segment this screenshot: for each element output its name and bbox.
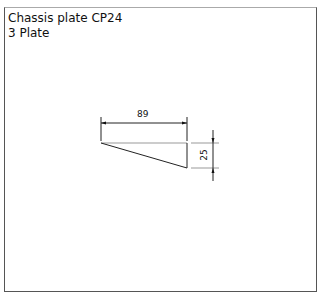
height-dimension-label: 25	[199, 149, 209, 160]
width-dimension	[101, 117, 187, 141]
width-dimension-label: 89	[137, 109, 148, 119]
triangle-shape	[101, 143, 187, 168]
